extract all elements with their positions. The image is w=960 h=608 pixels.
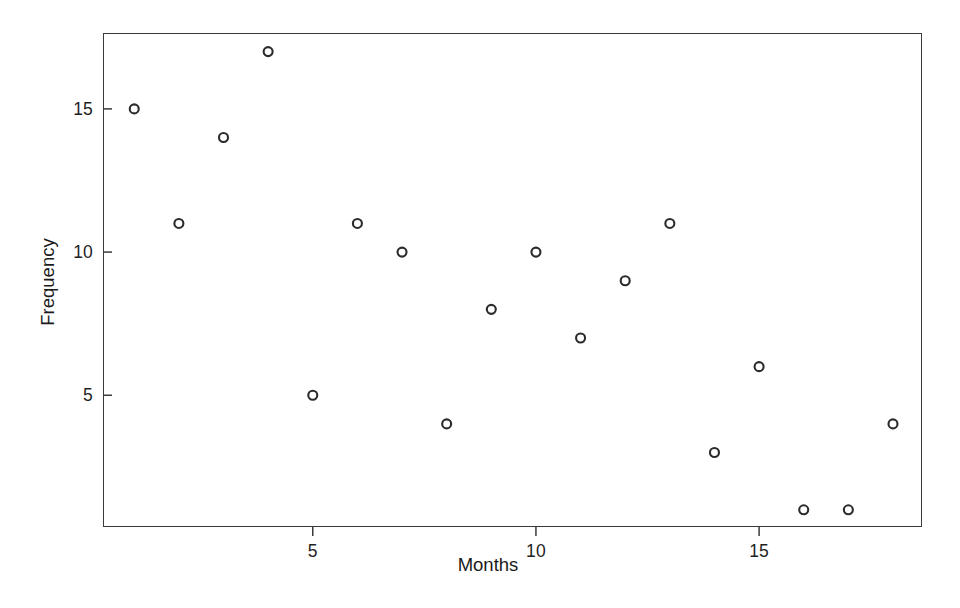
data-point-marker <box>755 362 764 371</box>
plot-canvas <box>0 0 960 608</box>
data-point-marker <box>219 133 228 142</box>
data-point-marker <box>576 333 585 342</box>
data-point-marker <box>308 391 317 400</box>
data-point-marker <box>264 47 273 56</box>
y-tick-label: 10 <box>57 242 93 263</box>
x-axis-ticks <box>313 527 759 536</box>
data-point-marker <box>844 505 853 514</box>
data-point-marker <box>398 248 407 257</box>
x-tick-label: 5 <box>308 541 318 562</box>
data-point-marker <box>621 276 630 285</box>
data-point-markers <box>130 47 898 514</box>
data-point-marker <box>799 505 808 514</box>
y-axis-title: Frequency <box>37 238 59 325</box>
data-point-marker <box>531 248 540 257</box>
data-point-marker <box>665 219 674 228</box>
data-point-marker <box>710 448 719 457</box>
x-axis-title: Months <box>458 554 519 576</box>
chart-figure: 51015 51015 Months Frequency <box>0 0 960 608</box>
y-axis-ticks <box>103 109 112 395</box>
data-point-marker <box>442 419 451 428</box>
data-point-marker <box>174 219 183 228</box>
x-tick-label: 15 <box>749 541 769 562</box>
data-point-marker <box>130 104 139 113</box>
y-tick-label: 5 <box>57 385 93 406</box>
x-tick-label: 10 <box>526 541 546 562</box>
data-point-marker <box>353 219 362 228</box>
y-tick-label: 15 <box>57 98 93 119</box>
data-point-marker <box>487 305 496 314</box>
data-point-marker <box>888 419 897 428</box>
